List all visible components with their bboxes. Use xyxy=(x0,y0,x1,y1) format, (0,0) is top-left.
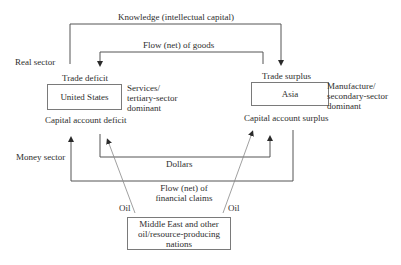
oil-right-label: Oil xyxy=(228,203,240,213)
us-sector-note: Services/ tertiary-sector dominant xyxy=(127,83,177,113)
middle-east-line-2: oil/resource-producing xyxy=(138,229,220,239)
financial-claims-flow-arrow xyxy=(71,130,293,181)
us-sector-note-line-2: tertiary-sector xyxy=(127,93,177,103)
real-sector-label: Real sector xyxy=(15,57,55,67)
economic-flow-diagram: Real sector Money sector Knowledge (inte… xyxy=(0,0,401,265)
financial-claims-line-1: Flow (net) of xyxy=(150,183,218,193)
us-sector-note-line-1: Services/ xyxy=(127,83,177,93)
knowledge-flow-label: Knowledge (intellectual capital) xyxy=(118,12,234,22)
money-sector-label: Money sector xyxy=(16,152,65,162)
goods-flow-arrow xyxy=(100,52,263,64)
asia-node: Asia xyxy=(251,82,329,106)
us-capital-account-deficit-label: Capital account deficit xyxy=(45,115,126,125)
middle-east-line-3: nations xyxy=(166,239,192,249)
united-states-node: United States xyxy=(47,84,122,110)
asia-sector-note-line-2: secondary-sector xyxy=(327,91,388,101)
oil-left-label: Oil xyxy=(119,203,131,213)
asia-trade-surplus-label: Trade surplus xyxy=(262,71,311,81)
financial-claims-flow-label: Flow (net) of financial claims xyxy=(150,183,218,203)
united-states-label: United States xyxy=(60,92,108,102)
asia-sector-note-line-3: dominant xyxy=(327,101,388,111)
asia-capital-account-surplus-label: Capital account surplus xyxy=(244,113,328,123)
us-trade-deficit-label: Trade deficit xyxy=(62,73,108,83)
asia-sector-note: Manufacture/ secondary-sector dominant xyxy=(327,81,388,111)
goods-flow-label: Flow (net) of goods xyxy=(143,40,214,50)
financial-claims-line-2: financial claims xyxy=(150,193,218,203)
middle-east-line-1: Middle East and other xyxy=(139,219,219,229)
oil-right-arrow xyxy=(223,133,252,213)
asia-sector-note-line-1: Manufacture/ xyxy=(327,81,388,91)
middle-east-node: Middle East and other oil/resource-produ… xyxy=(127,217,231,250)
dollars-flow-label: Dollars xyxy=(166,159,193,169)
asia-label: Asia xyxy=(282,89,299,99)
us-sector-note-line-3: dominant xyxy=(127,103,177,113)
